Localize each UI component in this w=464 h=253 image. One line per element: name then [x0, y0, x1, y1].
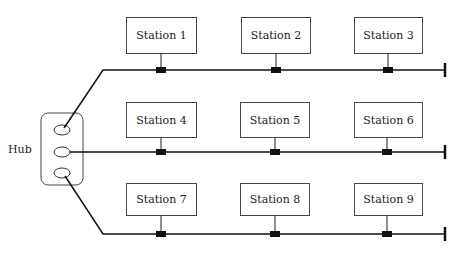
- hub-port-2: [54, 147, 70, 157]
- tap-7: [156, 231, 166, 237]
- station-4: Station 4: [126, 102, 197, 138]
- station-1: Station 1: [126, 17, 197, 54]
- station-6: Station 6: [354, 102, 423, 138]
- station-8: Station 8: [240, 183, 310, 216]
- tap-3: [383, 67, 393, 73]
- station-7: Station 7: [126, 183, 197, 216]
- station-2: Station 2: [241, 17, 311, 54]
- station-5: Station 5: [240, 102, 310, 138]
- station-3: Station 3: [354, 17, 423, 54]
- tap-9: [382, 231, 392, 237]
- hub-box: [41, 113, 83, 185]
- tap-8: [270, 231, 280, 237]
- hub-port-1: [54, 125, 70, 135]
- tap-6: [382, 149, 392, 155]
- hub-label: Hub: [8, 143, 32, 156]
- tap-1: [156, 67, 166, 73]
- tap-4: [156, 149, 166, 155]
- hub-port-3: [54, 168, 70, 178]
- station-9: Station 9: [354, 183, 423, 216]
- tap-5: [270, 149, 280, 155]
- tap-2: [271, 67, 281, 73]
